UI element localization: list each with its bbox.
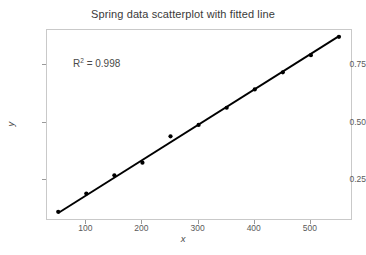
data-point [196, 123, 200, 127]
chart-title: Spring data scatterplot with fitted line [0, 8, 366, 20]
x-tick-label: 300 [191, 223, 205, 233]
x-tick-mark [254, 220, 255, 224]
data-point [56, 210, 60, 214]
x-tick-label: 200 [134, 223, 148, 233]
data-point [225, 106, 229, 110]
data-point [168, 134, 172, 138]
data-point [253, 87, 257, 91]
x-tick-mark [141, 220, 142, 224]
x-tick-mark [198, 220, 199, 224]
x-tick-mark [85, 220, 86, 224]
data-point [309, 53, 313, 57]
x-tick-label: 400 [247, 223, 261, 233]
y-tick-label: 0.50 [336, 117, 366, 127]
y-tick-mark [42, 122, 46, 123]
x-tick-mark [310, 220, 311, 224]
y-axis-label-wrap: y [4, 117, 18, 131]
r-squared-suffix: = 0.998 [84, 58, 120, 69]
r-squared-annotation: R2 = 0.998 [73, 57, 120, 69]
data-point [140, 161, 144, 165]
y-tick-mark [42, 179, 46, 180]
y-axis-label: y [4, 117, 18, 131]
x-tick-label: 100 [78, 223, 92, 233]
y-tick-label: 0.75 [336, 59, 366, 69]
chart-figure: Spring data scatterplot with fitted line… [0, 0, 366, 255]
data-point [112, 173, 116, 177]
y-tick-mark [42, 64, 46, 65]
data-point [337, 35, 341, 39]
y-tick-label: 0.25 [336, 174, 366, 184]
x-tick-label: 500 [303, 223, 317, 233]
data-point [281, 70, 285, 74]
data-point [84, 191, 88, 195]
x-axis-label: x [0, 233, 366, 244]
